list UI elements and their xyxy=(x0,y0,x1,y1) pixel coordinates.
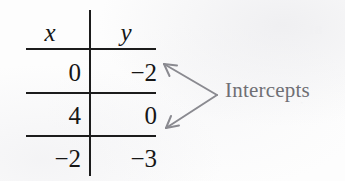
intercepts-annotation: Intercepts xyxy=(155,50,345,140)
values-table: x y 0 −2 4 0 −2 −3 xyxy=(0,0,175,181)
column-header-y: y xyxy=(96,20,156,45)
table-row: 0 xyxy=(95,103,157,128)
scan-artifact-a: ⋅ xyxy=(292,4,297,20)
column-header-x: x xyxy=(19,20,81,45)
table-header-rule xyxy=(26,48,156,50)
figure-root: ⋅ 0.18 · x y 0 −2 4 0 −2 −3 Intercepts xyxy=(0,0,345,181)
table-row: −2 xyxy=(95,60,157,85)
intercepts-label: Intercepts xyxy=(225,78,310,103)
table-row: 0 xyxy=(11,60,81,85)
scan-artifact-b: 0.18 xyxy=(296,22,323,38)
table-row: −2 xyxy=(11,146,81,171)
table-row: 4 xyxy=(11,103,81,128)
table-row-rule-2 xyxy=(26,135,156,137)
table-row-rule-1 xyxy=(26,92,156,94)
table-row: −3 xyxy=(95,146,157,171)
